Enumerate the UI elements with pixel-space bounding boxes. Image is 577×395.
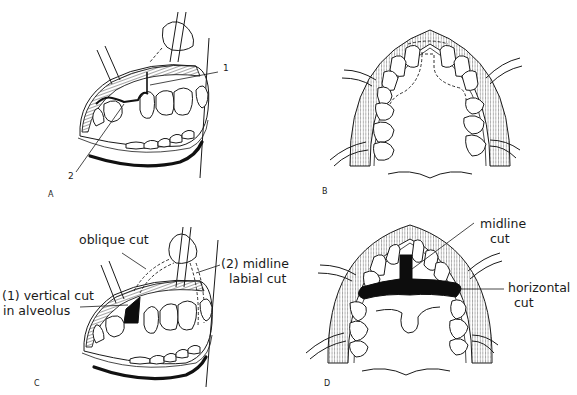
- panel-label-c: C: [34, 380, 40, 388]
- panel-a-drawing: [0, 0, 290, 200]
- callout-1: 1: [223, 64, 229, 73]
- annotation-vertical-cut-line2: in alveolus: [3, 304, 70, 317]
- annotation-midline-cut-line2: cut: [490, 232, 510, 245]
- panel-b: B: [290, 0, 577, 200]
- annotation-vertical-cut-line1: (1) vertical cut: [2, 289, 94, 302]
- annotation-midline-labial-cut-line1: (2) midline: [221, 257, 289, 270]
- panel-b-drawing: [290, 0, 577, 200]
- panel-a: 1 2 A: [0, 0, 290, 200]
- panel-d: midline cut horizontal cut D: [290, 195, 577, 395]
- annotation-midline-labial-cut-line2: labial cut: [229, 272, 286, 285]
- panel-c: oblique cut (2) midline labial cut (1) v…: [0, 195, 290, 395]
- panel-label-d: D: [324, 380, 330, 388]
- callout-2: 2: [68, 172, 74, 181]
- annotation-horizontal-cut-line2: cut: [514, 296, 534, 309]
- annotation-midline-cut-line1: midline: [480, 217, 526, 230]
- annotation-oblique-cut: oblique cut: [79, 233, 149, 246]
- annotation-horizontal-cut-line1: horizontal: [508, 281, 570, 294]
